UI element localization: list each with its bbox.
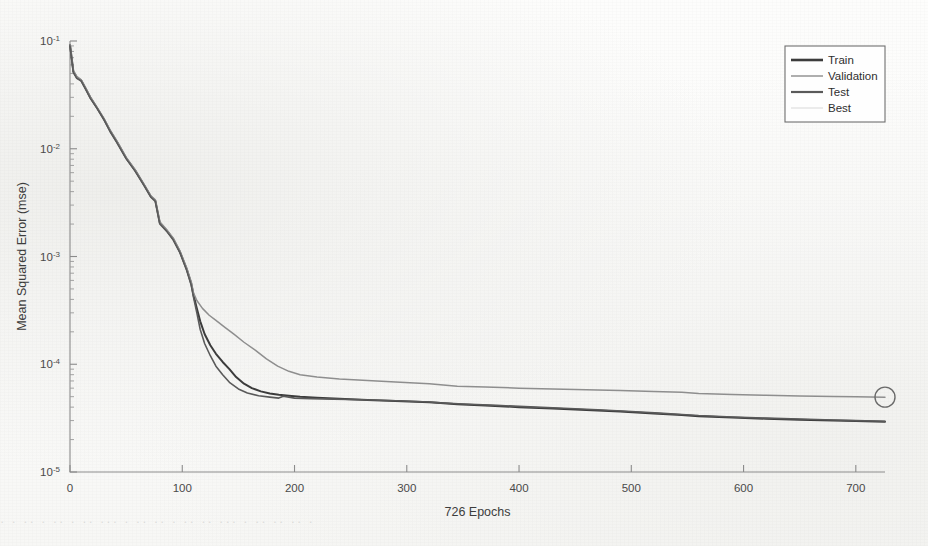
training-performance-chart: 10-510-410-310-210-101002003004005006007… (0, 0, 928, 546)
series-line-train (70, 45, 885, 422)
series-line-validation (70, 44, 885, 397)
x-axis-label: 726 Epochs (444, 505, 510, 519)
x-tick-label: 300 (397, 482, 416, 494)
x-tick-label: 400 (509, 482, 528, 494)
legend-label-best: Best (828, 102, 852, 114)
legend-label-validation: Validation (828, 70, 878, 82)
y-axis-label: Mean Squared Error (mse) (15, 182, 29, 331)
legend-label-test: Test (828, 86, 850, 98)
x-tick-label: 200 (285, 482, 304, 494)
x-tick-label: 600 (734, 482, 753, 494)
x-tick-label: 500 (622, 482, 641, 494)
x-tick-label: 100 (173, 482, 192, 494)
axis-frame (70, 41, 885, 472)
series-line-test (70, 46, 885, 421)
y-tick-label: 10-3 (40, 250, 60, 263)
y-tick-label: 10-5 (40, 465, 60, 478)
x-tick-label: 0 (67, 482, 73, 494)
y-tick-label: 10-4 (40, 357, 60, 370)
y-tick-label: 10-2 (40, 142, 60, 155)
x-tick-label: 700 (846, 482, 865, 494)
chart-svg: 10-510-410-310-210-101002003004005006007… (0, 0, 928, 546)
legend-label-train: Train (828, 54, 854, 66)
y-tick-label: 10-1 (40, 34, 60, 47)
